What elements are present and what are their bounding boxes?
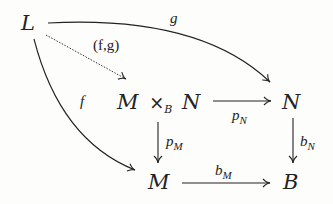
label-pN-main: p — [232, 107, 240, 123]
label-bM-sub: M — [223, 169, 232, 181]
node-M: M — [148, 172, 170, 193]
pullback-left: M — [117, 90, 139, 114]
node-N: N — [282, 92, 300, 113]
node-B: B — [283, 172, 298, 193]
label-bM-main: b — [215, 162, 223, 178]
label-pM-main: p — [166, 133, 174, 149]
label-pM: pM — [166, 134, 183, 149]
label-pN-sub: N — [240, 114, 247, 126]
label-fg-text: (f,g) — [93, 37, 119, 53]
node-pullback: M ×B N — [117, 92, 200, 113]
pullback-times: × — [149, 92, 164, 113]
label-f: f — [80, 94, 84, 109]
pullback-right: N — [182, 90, 200, 114]
pullback-sub: B — [164, 103, 172, 116]
label-fg: (f,g) — [93, 38, 119, 53]
label-bN-sub: N — [308, 140, 315, 152]
label-bM: bM — [215, 163, 232, 178]
label-pN: pN — [232, 108, 247, 123]
label-bN-main: b — [300, 133, 308, 149]
node-L: L — [21, 13, 35, 34]
label-bN: bN — [300, 134, 315, 149]
arrow-g — [48, 22, 270, 82]
pullback-diagram: L M ×B N N M B g (f,g) f pN pM bN bM — [0, 0, 333, 204]
label-pM-sub: M — [174, 140, 183, 152]
label-g: g — [170, 11, 178, 26]
